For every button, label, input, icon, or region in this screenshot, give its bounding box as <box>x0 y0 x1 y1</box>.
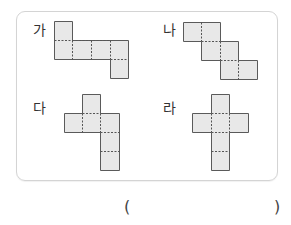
answer-open-paren: ( <box>124 197 130 216</box>
answer-close-paren: ) <box>274 197 280 216</box>
net-ra[interactable] <box>193 95 249 171</box>
answer-input[interactable] <box>140 197 270 215</box>
net-da[interactable] <box>65 95 120 171</box>
net-ga[interactable] <box>55 22 129 79</box>
net-na[interactable] <box>184 23 258 80</box>
cube-nets <box>0 0 291 225</box>
